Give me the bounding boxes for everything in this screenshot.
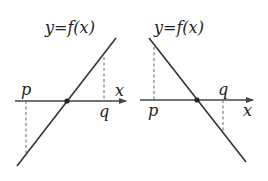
p-label: p [21, 80, 31, 99]
function-label: y=f(x) [153, 18, 204, 37]
right-panel: y=f(x) q p x [140, 18, 253, 162]
q-label: q [218, 80, 228, 99]
root-point [194, 97, 199, 102]
function-label: y=f(x) [44, 18, 95, 37]
root-point [64, 98, 69, 103]
q-label: q [99, 102, 109, 121]
diagram-canvas: y=f(x) p q x y=f(x) q p x [0, 0, 268, 181]
x-axis-label: x [243, 101, 252, 120]
p-label: p [148, 101, 158, 120]
left-panel: y=f(x) p q x [15, 18, 126, 166]
x-axis-label: x [115, 81, 124, 100]
